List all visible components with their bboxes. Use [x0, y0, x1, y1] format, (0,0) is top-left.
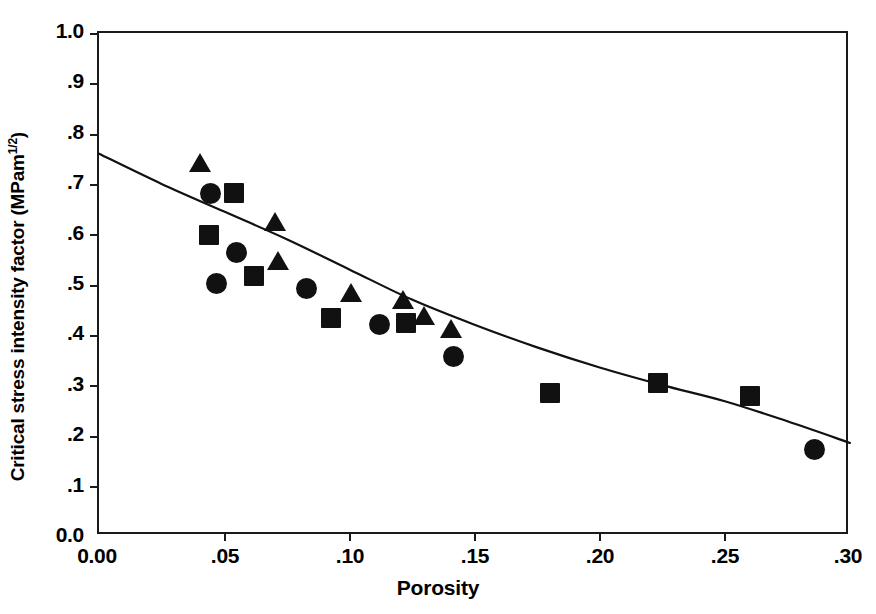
y-tick-mark	[90, 335, 99, 337]
x-axis-title: Porosity	[0, 576, 876, 600]
y-tick-mark	[90, 436, 99, 438]
plot-area	[97, 31, 848, 534]
y-axis-title-superscript: 1/2	[6, 138, 20, 154]
data-point-circle	[443, 346, 464, 367]
data-point-triangle	[189, 153, 211, 172]
data-point-square	[224, 183, 244, 203]
y-tick-mark	[90, 83, 99, 85]
x-tick-label-0.10: .10	[305, 545, 395, 566]
data-point-square	[199, 225, 219, 245]
data-point-triangle	[264, 212, 286, 231]
y-tick-label-0.6: .6	[22, 222, 84, 243]
y-tick-mark	[90, 33, 99, 35]
x-tick-label-0.00: 0.00	[52, 545, 142, 566]
data-point-triangle	[340, 283, 362, 302]
x-tick-label-0.30: .30	[803, 545, 876, 566]
y-tick-mark	[90, 184, 99, 186]
data-point-circle	[369, 314, 390, 335]
data-point-circle	[200, 183, 221, 204]
y-tick-label-0.9: .9	[22, 70, 84, 91]
y-tick-label-0.2: .2	[22, 423, 84, 444]
y-tick-label-0.5: .5	[22, 272, 84, 293]
data-point-triangle	[392, 290, 414, 309]
y-tick-mark	[90, 385, 99, 387]
x-tick-label-0.25: .25	[680, 545, 770, 566]
data-point-square	[740, 386, 760, 406]
y-axis-title: Critical stress intensity factor (MPam1/…	[0, 0, 42, 614]
data-point-square	[648, 373, 668, 393]
x-tick-label-0.20: .20	[555, 545, 645, 566]
y-tick-label-0.8: .8	[22, 121, 84, 142]
data-point-triangle	[440, 319, 462, 338]
x-tick-label-0.15: .15	[430, 545, 520, 566]
y-tick-label-0.3: .3	[22, 373, 84, 394]
data-point-square	[321, 308, 341, 328]
figure-container: Critical stress intensity factor (MPam1/…	[0, 0, 876, 614]
y-tick-label-0.0: 0.0	[22, 524, 84, 545]
y-tick-mark	[90, 486, 99, 488]
data-point-square	[540, 383, 560, 403]
y-tick-mark	[90, 285, 99, 287]
y-tick-mark	[90, 234, 99, 236]
y-tick-label-0.4: .4	[22, 322, 84, 343]
data-point-square	[244, 266, 264, 286]
x-tick-label-0.05: .05	[180, 545, 270, 566]
y-tick-label-0.7: .7	[22, 171, 84, 192]
data-point-triangle	[413, 306, 435, 325]
y-tick-mark	[90, 134, 99, 136]
y-tick-label-1.0: 1.0	[22, 20, 84, 41]
data-point-square	[396, 313, 416, 333]
y-tick-label-0.1: .1	[22, 474, 84, 495]
data-point-triangle	[267, 251, 289, 270]
